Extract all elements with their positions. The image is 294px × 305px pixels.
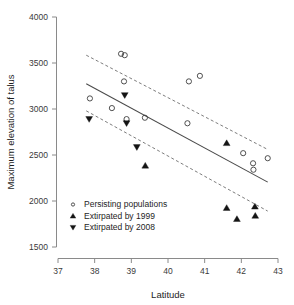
x-axis-title: Latitude xyxy=(151,289,185,300)
regression-lines xyxy=(86,55,268,211)
data-point-open-circle xyxy=(186,79,191,84)
y-axis: 150020002500300035004000 Maximum elevati… xyxy=(5,12,57,252)
data-point-open-circle xyxy=(265,156,270,161)
data-point-filled-down-triangle xyxy=(70,225,76,230)
x-tick-label: 41 xyxy=(200,266,210,276)
series-group xyxy=(86,93,140,151)
y-tick-label: 3000 xyxy=(29,104,48,114)
y-tick-label: 2000 xyxy=(29,196,48,206)
data-point-open-circle xyxy=(71,203,74,206)
data-point-filled-up-triangle xyxy=(252,213,259,219)
scatter-plot-figure: 150020002500300035004000 Maximum elevati… xyxy=(0,0,294,305)
x-tick-label: 42 xyxy=(237,266,247,276)
data-point-filled-up-triangle xyxy=(142,162,149,168)
x-tick-label: 39 xyxy=(127,266,137,276)
legend-item-label: Persisting populations xyxy=(84,199,167,209)
regression-fit-line xyxy=(86,84,268,182)
y-tick-label: 3500 xyxy=(29,58,48,68)
data-point-open-circle xyxy=(241,151,246,156)
data-point-filled-up-triangle xyxy=(223,205,230,211)
data-point-open-circle xyxy=(251,167,256,172)
x-tick-label: 40 xyxy=(163,266,173,276)
y-tick-group: 150020002500300035004000 xyxy=(29,12,56,252)
data-point-open-circle xyxy=(109,105,114,110)
chart-canvas: 150020002500300035004000 Maximum elevati… xyxy=(0,0,294,305)
data-point-open-circle xyxy=(87,96,92,101)
x-tick-label: 43 xyxy=(273,266,283,276)
x-tick-label: 37 xyxy=(53,266,63,276)
data-point-filled-up-triangle xyxy=(70,213,76,218)
data-point-filled-up-triangle xyxy=(252,203,259,209)
legend: Persisting populationsExtirpated by 1999… xyxy=(70,199,167,232)
data-point-layer xyxy=(86,51,271,221)
y-tick-label: 2500 xyxy=(29,150,48,160)
y-tick-label: 1500 xyxy=(29,242,48,252)
data-point-filled-up-triangle xyxy=(234,216,241,222)
legend-item: Persisting populations xyxy=(71,199,167,209)
y-tick-label: 4000 xyxy=(29,12,48,22)
confidence-band-upper-line xyxy=(86,55,268,149)
data-point-open-circle xyxy=(185,121,190,126)
legend-item: Extirpated by 2008 xyxy=(70,222,155,232)
data-point-filled-down-triangle xyxy=(133,145,140,151)
confidence-band-lower-line xyxy=(86,111,268,211)
data-point-open-circle xyxy=(250,161,255,166)
x-axis: 37383940414243 Latitude xyxy=(53,259,283,301)
data-point-filled-down-triangle xyxy=(121,93,128,99)
series-group xyxy=(87,51,270,172)
legend-item-label: Extirpated by 2008 xyxy=(84,222,155,232)
legend-item: Extirpated by 1999 xyxy=(70,211,155,221)
x-tick-group: 37383940414243 xyxy=(53,259,283,277)
x-tick-label: 38 xyxy=(90,266,100,276)
data-point-open-circle xyxy=(197,73,202,78)
y-axis-title: Maximum elevation of talus xyxy=(5,74,16,189)
data-point-open-circle xyxy=(121,79,126,84)
legend-item-label: Extirpated by 1999 xyxy=(84,211,155,221)
data-point-filled-down-triangle xyxy=(86,117,93,123)
data-point-filled-up-triangle xyxy=(223,140,230,146)
data-point-filled-down-triangle xyxy=(123,121,130,127)
